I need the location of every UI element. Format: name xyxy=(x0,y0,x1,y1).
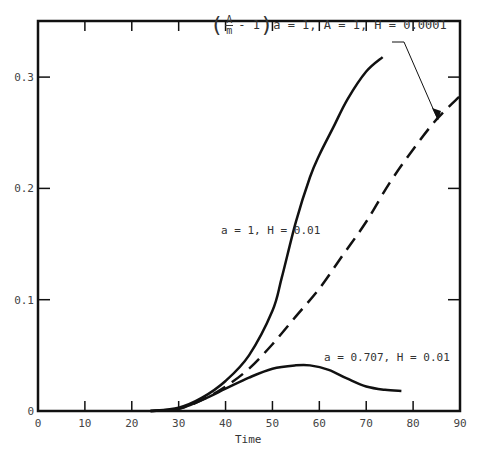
x-tick-label: 70 xyxy=(360,417,373,430)
fraction: A m xyxy=(225,15,233,36)
paren-open: ( xyxy=(210,14,223,36)
x-tick-label: 60 xyxy=(313,417,326,430)
paren-close: ) xyxy=(260,14,273,36)
x-tick-label: 80 xyxy=(406,417,419,430)
annotation-a1: a = 1, H = 0.01 xyxy=(221,224,320,237)
x-tick-label: 40 xyxy=(219,417,232,430)
x-tick-label: 50 xyxy=(266,417,279,430)
x-tick-label: 90 xyxy=(453,417,466,430)
annotation-minus-one: - 1 xyxy=(238,18,260,32)
x-tick-label: 10 xyxy=(78,417,91,430)
fraction-numerator: A xyxy=(225,15,233,26)
y-tick-label: 0.2 xyxy=(14,182,34,195)
x-axis-label: Time xyxy=(235,433,262,446)
x-tick-label: 0 xyxy=(35,417,42,430)
y-tick-label: 0 xyxy=(27,405,34,418)
fraction-denominator: m xyxy=(226,26,232,36)
annotation-leader-line xyxy=(392,42,438,120)
annotation-a0707: a = 0.707, H = 0.01 xyxy=(324,351,450,364)
annotation-dashed: ( A m - 1 ) a = 1, A = 1, H = 0.0001 xyxy=(210,14,447,36)
x-tick-label: 20 xyxy=(125,417,138,430)
y-tick-label: 0.3 xyxy=(14,71,34,84)
annotation-params: a = 1, A = 1, H = 0.0001 xyxy=(273,18,446,32)
y-tick-label: 0.1 xyxy=(14,294,34,307)
x-tick-label: 30 xyxy=(172,417,185,430)
